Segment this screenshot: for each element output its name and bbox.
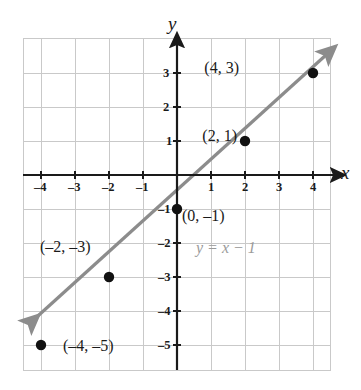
x-tick-label-neg2: –2 [102,181,115,194]
x-tick-label-4: 4 [310,181,316,194]
y-tick-label-neg5: –5 [158,339,171,352]
point-label-2-1: (2, 1) [202,128,237,144]
graph-figure: y x –4 –3 –2 –1 1 2 3 4 3 2 1 –1 –2 –3 –… [0,0,361,390]
data-point [308,68,318,78]
y-tick-label-neg3: –3 [158,271,171,284]
point-label-0-neg1: (0, –1) [182,208,225,224]
x-tick-label-1: 1 [208,181,214,194]
y-tick-label-neg4: –4 [158,305,171,318]
y-tick-label-1: 1 [166,135,172,148]
data-point [240,136,250,146]
y-axis-label: y [168,14,176,33]
data-point [36,340,46,350]
x-tick-label-neg4: –4 [34,181,47,194]
y-tick-label-3: 3 [163,67,169,80]
point-label-neg4-neg5: (–4, –5) [63,338,114,354]
x-axis-label: x [341,163,349,182]
x-tick-label-neg3: –3 [68,181,81,194]
y-tick-label-neg1: –1 [158,203,171,216]
y-tick-label-2: 2 [163,101,169,114]
coordinate-plane-svg [0,0,361,390]
x-tick-label-3: 3 [276,181,282,194]
x-tick-label-neg1: –1 [136,181,149,194]
point-label-4-3: (4, 3) [204,60,239,76]
data-point [172,204,182,214]
y-tick-label-neg2: –2 [158,237,171,250]
x-tick-label-2: 2 [242,181,248,194]
equation-annotation: y = x − 1 [196,240,256,256]
point-label-neg2-neg3: (–2, –3) [40,239,91,255]
data-point [104,272,114,282]
